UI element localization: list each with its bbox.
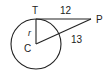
label-point-p: P bbox=[96, 14, 103, 25]
label-length-tp: 12 bbox=[60, 5, 72, 16]
geometry-diagram: T 12 P r C 13 bbox=[0, 0, 107, 74]
label-point-t: T bbox=[32, 5, 38, 16]
label-length-cp: 13 bbox=[71, 34, 83, 45]
label-radius-r: r bbox=[28, 28, 32, 38]
label-point-c: C bbox=[24, 43, 31, 54]
segment-cp bbox=[36, 19, 91, 44]
